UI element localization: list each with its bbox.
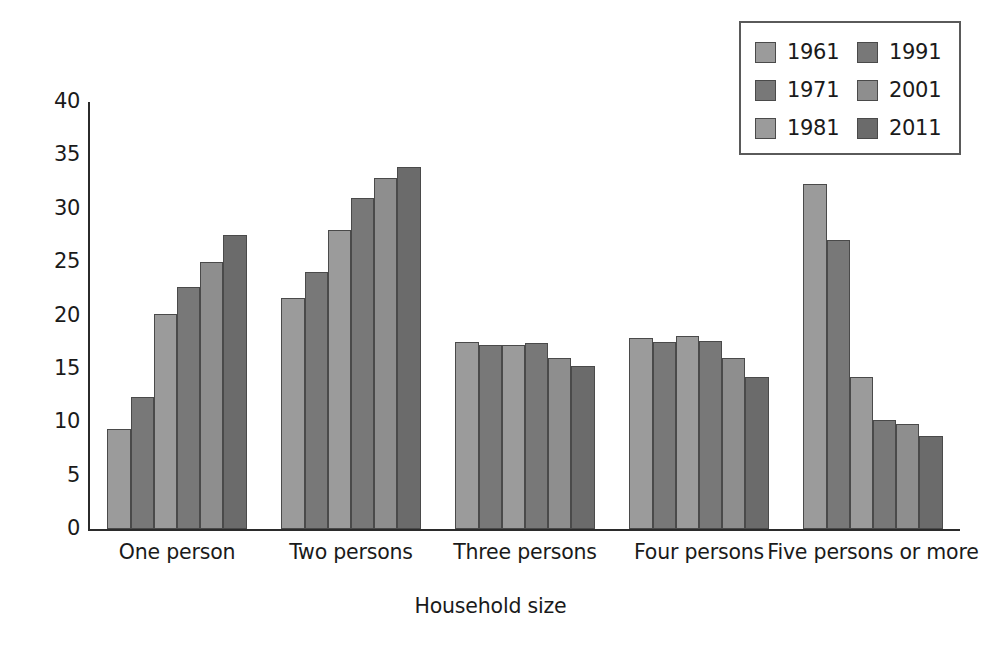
y-axis-tick-label: 10 bbox=[36, 411, 80, 432]
bar bbox=[223, 235, 246, 529]
bar bbox=[803, 184, 826, 529]
bar bbox=[328, 230, 351, 529]
legend-column-left: 196119711981 bbox=[755, 33, 839, 147]
bar bbox=[200, 262, 223, 529]
bar bbox=[722, 358, 745, 529]
bar bbox=[653, 342, 676, 529]
bar-group bbox=[786, 102, 960, 529]
y-axis-tick-label: 25 bbox=[36, 251, 80, 272]
legend-swatch-icon bbox=[755, 80, 776, 101]
legend-item-label: 1991 bbox=[889, 42, 941, 63]
y-axis-tick-label: 30 bbox=[36, 198, 80, 219]
bar-group bbox=[612, 102, 786, 529]
bar bbox=[676, 336, 699, 529]
bar bbox=[525, 343, 548, 529]
legend-swatch-icon bbox=[755, 118, 776, 139]
bar bbox=[571, 366, 594, 529]
bar bbox=[745, 377, 768, 529]
legend-swatch-icon bbox=[755, 42, 776, 63]
bar bbox=[850, 377, 873, 529]
bar-group bbox=[438, 102, 612, 529]
bar-group bbox=[90, 102, 264, 529]
bar bbox=[351, 198, 374, 529]
bar bbox=[479, 345, 502, 529]
legend: 196119711981 199120012011 bbox=[739, 21, 961, 155]
y-axis-tick-label: 5 bbox=[36, 465, 80, 486]
bar bbox=[455, 342, 478, 529]
plot-area bbox=[90, 102, 960, 529]
bar bbox=[548, 358, 571, 529]
bar bbox=[699, 341, 722, 529]
legend-item-label: 2011 bbox=[889, 118, 941, 139]
legend-item-label: 1981 bbox=[787, 118, 839, 139]
x-axis-line bbox=[88, 529, 960, 531]
bar bbox=[177, 287, 200, 529]
legend-swatch-icon bbox=[857, 42, 878, 63]
bar bbox=[281, 298, 304, 529]
bar bbox=[629, 338, 652, 529]
legend-item[interactable]: 1961 bbox=[755, 33, 839, 71]
y-axis-tick-label: 35 bbox=[36, 144, 80, 165]
y-axis-tick-label: 15 bbox=[36, 358, 80, 379]
legend-item[interactable]: 2001 bbox=[857, 71, 941, 109]
bar bbox=[397, 167, 420, 529]
y-axis-tick-label: 20 bbox=[36, 305, 80, 326]
bar bbox=[107, 429, 130, 529]
y-axis-tick-label: 40 bbox=[36, 91, 80, 112]
x-axis-title: Household size bbox=[0, 594, 981, 618]
bar bbox=[896, 424, 919, 529]
bar bbox=[131, 397, 154, 529]
legend-item[interactable]: 2011 bbox=[857, 109, 941, 147]
legend-item-label: 2001 bbox=[889, 80, 941, 101]
legend-item-label: 1961 bbox=[787, 42, 839, 63]
legend-item-label: 1971 bbox=[787, 80, 839, 101]
x-axis-category-label: Five persons or more bbox=[763, 540, 981, 565]
legend-item[interactable]: 1991 bbox=[857, 33, 941, 71]
legend-swatch-icon bbox=[857, 80, 878, 101]
bar bbox=[154, 314, 177, 529]
bar-chart: 0510152025303540 One personTwo personsTh… bbox=[0, 0, 981, 651]
bar bbox=[919, 436, 942, 529]
legend-item[interactable]: 1981 bbox=[755, 109, 839, 147]
bar bbox=[827, 240, 850, 529]
y-axis-tick-label: 0 bbox=[36, 518, 80, 539]
bar bbox=[374, 178, 397, 529]
bar-group bbox=[264, 102, 438, 529]
bar bbox=[873, 420, 896, 529]
legend-swatch-icon bbox=[857, 118, 878, 139]
legend-column-right: 199120012011 bbox=[857, 33, 941, 147]
bar bbox=[502, 345, 525, 529]
legend-item[interactable]: 1971 bbox=[755, 71, 839, 109]
bar bbox=[305, 272, 328, 529]
